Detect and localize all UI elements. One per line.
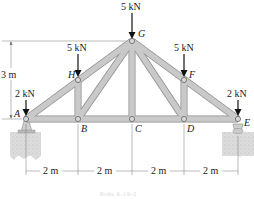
span-label-1: 2 m xyxy=(43,165,59,176)
pin-support-a xyxy=(10,121,41,160)
load-label-h: 5 kN xyxy=(67,42,87,53)
load-label-f: 5 kN xyxy=(174,42,194,53)
node-label-g: G xyxy=(138,28,145,39)
node-label-a: A xyxy=(13,108,21,119)
joint-b xyxy=(75,116,80,121)
node-label-d: D xyxy=(186,123,195,134)
span-label-4: 2 m xyxy=(203,165,219,176)
load-g xyxy=(129,13,136,39)
load-h xyxy=(75,54,82,77)
joint-d xyxy=(181,116,186,121)
truss-diagram: 3 m xyxy=(0,0,254,199)
node-label-h: H xyxy=(67,69,76,80)
truss-members xyxy=(26,41,238,119)
figure-caption: Probs. 6–1/6–2 xyxy=(100,191,136,197)
node-label-f: F xyxy=(188,69,196,80)
span-label-2: 2 m xyxy=(97,165,113,176)
joint-f xyxy=(181,77,186,82)
node-label-e: E xyxy=(243,117,250,128)
node-label-c: C xyxy=(135,123,142,134)
joint-g xyxy=(129,38,134,43)
span-label-3: 2 m xyxy=(151,165,167,176)
node-label-b: B xyxy=(81,123,87,134)
load-label-e: 2 kN xyxy=(227,88,247,99)
load-label-g: 5 kN xyxy=(121,1,141,12)
height-label: 3 m xyxy=(1,69,17,80)
joint-c xyxy=(129,116,134,121)
joint-e xyxy=(235,116,240,121)
load-label-a: 2 kN xyxy=(15,88,35,99)
joint-h xyxy=(75,77,80,82)
truss-svg: 3 m xyxy=(0,0,254,199)
joint-a xyxy=(23,116,28,121)
